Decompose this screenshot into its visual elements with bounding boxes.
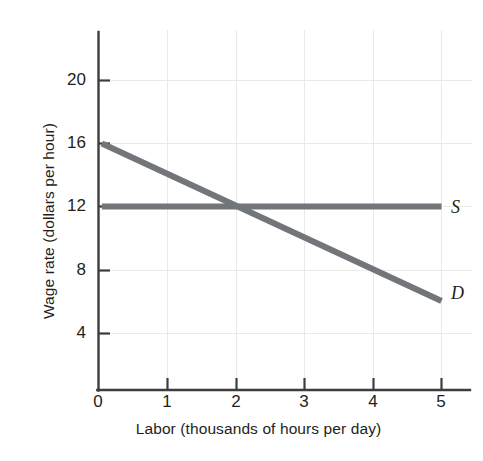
x-tick-label-3: 3 [289,392,319,412]
labor-market-chart: Wage rate (dollars per hour) Labor (thou… [0,0,483,461]
axis-lines [97,32,470,391]
x-tick-label-0: 0 [83,392,113,412]
x-tick-label-5: 5 [426,392,456,412]
x-tick-label-1: 1 [152,392,182,412]
y-tick-label-8: 8 [52,260,86,280]
y-tick-label-12: 12 [52,196,86,216]
demand-curve-label: D [451,283,464,304]
y-tick-label-16: 16 [52,133,86,153]
y-tick-label-4: 4 [52,323,86,343]
grid-lines-vertical [168,30,442,390]
y-tick-label-20: 20 [52,70,86,90]
x-axis-title: Labor (thousands of hours per day) [0,420,483,438]
x-axis-ticks [168,378,442,390]
supply-curve-label: S [451,197,460,218]
x-tick-label-2: 2 [221,392,251,412]
demand-curve [102,144,442,302]
x-tick-label-4: 4 [358,392,388,412]
